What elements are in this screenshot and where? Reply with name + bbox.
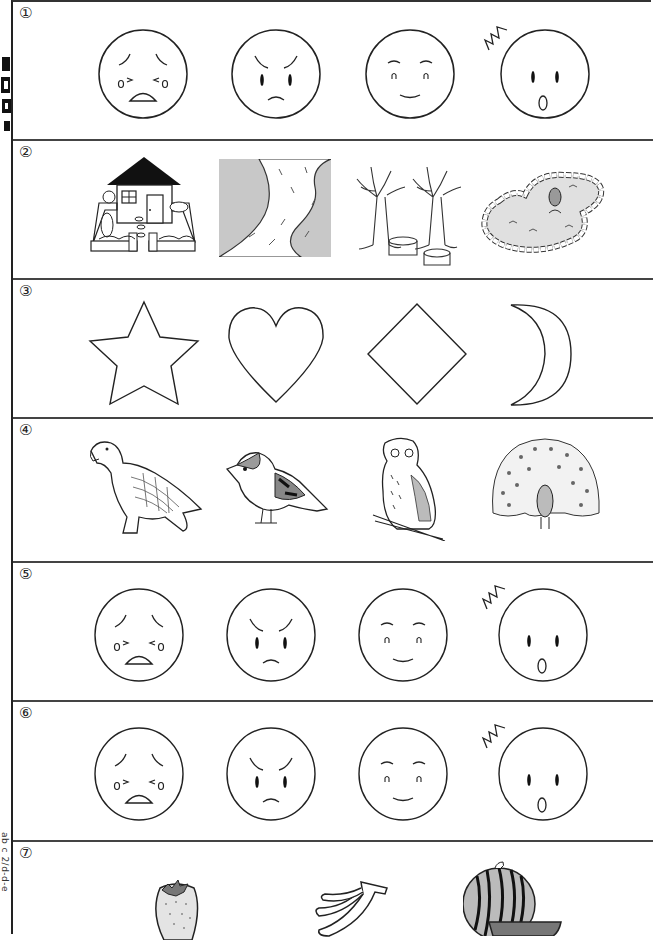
surprised-face-icon <box>483 24 595 122</box>
diamond-icon <box>366 302 468 406</box>
side-margin-strip: ab c 2/d-d-e <box>0 0 11 934</box>
surprised-face-icon <box>481 579 593 683</box>
angry-face-icon <box>230 28 322 120</box>
owl-icon <box>371 435 447 541</box>
angry-face-icon <box>225 587 317 683</box>
trees-with-stumps-icon <box>353 157 468 269</box>
angry-face-icon <box>225 726 317 822</box>
surprised-face-icon <box>481 718 593 822</box>
crescent-moon-icon <box>507 302 573 408</box>
worksheet-grid: ① <box>11 0 651 934</box>
smiling-face-icon <box>357 587 449 683</box>
row-5: ⑤ <box>13 563 653 702</box>
row-number: ② <box>19 145 32 160</box>
row-number: ③ <box>19 284 32 299</box>
row-1: ① <box>13 2 653 141</box>
row-2: ② <box>13 141 653 280</box>
star-icon <box>88 300 200 406</box>
side-heading-glyphs <box>0 55 11 135</box>
sparrow-icon <box>223 443 329 535</box>
row-7: ⑦ <box>13 842 653 936</box>
row-3: ③ <box>13 280 653 419</box>
crying-face-icon <box>93 587 185 683</box>
smiling-face-icon <box>357 726 449 822</box>
heart-icon <box>226 304 326 404</box>
side-code-text: ab c 2/d-d-e <box>0 832 10 934</box>
row-6: ⑥ <box>13 702 653 842</box>
watermelon-icon <box>463 860 563 936</box>
pond-with-fish-icon <box>479 161 609 257</box>
eagle-icon <box>83 437 203 543</box>
row-number: ⑦ <box>19 846 32 861</box>
crying-face-icon <box>93 726 185 822</box>
house-with-garden-icon <box>89 155 199 255</box>
row-number: ⑥ <box>19 706 32 721</box>
peacock-icon <box>489 433 601 533</box>
row-number: ⑤ <box>19 567 32 582</box>
row-number: ① <box>19 6 32 21</box>
banana-icon <box>313 878 393 938</box>
row-number: ④ <box>19 423 32 438</box>
river-icon <box>219 159 331 257</box>
crying-face-icon <box>97 28 189 120</box>
strawberry-icon <box>150 878 200 940</box>
smiling-face-icon <box>364 28 456 120</box>
row-4: ④ <box>13 419 653 563</box>
